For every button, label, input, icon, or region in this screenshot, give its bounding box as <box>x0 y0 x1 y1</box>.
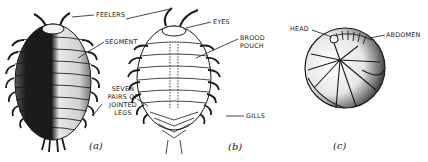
label-brood-line2: POUCH <box>240 42 265 50</box>
feelers-leader-b <box>126 9 170 19</box>
label-brood-pouch: BROOD POUCH <box>240 34 265 50</box>
panel-a-dorsal-woodlouse <box>6 13 99 152</box>
abdomen-leader <box>370 35 385 38</box>
eyes-leader <box>186 22 211 28</box>
label-seven-line1: SEVEN <box>103 85 143 93</box>
label-seven-line3: JOINTED <box>103 101 143 109</box>
label-segment: SEGMENT <box>105 38 138 46</box>
body-c <box>305 28 385 108</box>
label-seven-pairs-of-jointed-legs: SEVEN PAIRS OF JOINTED LEGS <box>103 85 143 117</box>
label-eyes: EYES <box>213 18 230 26</box>
legs-leader-a <box>94 104 102 114</box>
body-a <box>15 24 91 140</box>
feeler-left <box>34 14 46 26</box>
caption-a: (a) <box>89 140 103 151</box>
feelers-leader-a <box>72 15 94 17</box>
label-brood-line1: BROOD <box>240 34 265 42</box>
label-seven-line2: PAIRS OF <box>103 93 143 101</box>
label-seven-line4: LEGS <box>103 109 143 117</box>
label-feelers: FEELERS <box>96 11 125 19</box>
caption-b: (b) <box>228 141 242 152</box>
feeler-right <box>60 13 70 26</box>
label-head: HEAD <box>290 25 309 33</box>
panel-b-ventral-woodlouse <box>128 8 220 154</box>
label-abdomen: ABDOMEN <box>386 31 420 39</box>
caption-c: (c) <box>333 140 346 151</box>
panel-c-rolled-woodlouse <box>305 28 385 108</box>
label-gills: GILLS <box>246 112 265 120</box>
